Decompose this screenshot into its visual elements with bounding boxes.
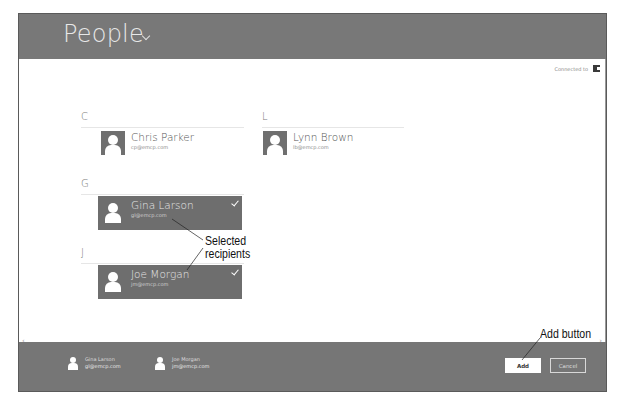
person-avatar-icon [153, 356, 167, 370]
annotation-line: recipients [205, 248, 250, 261]
contact-tile-gina-larson[interactable]: Gina Larson gl@emcp.com [98, 196, 242, 230]
checkmark-icon [231, 268, 239, 276]
contact-email: cp@emcp.com [131, 143, 194, 151]
connection-status: Connected to [554, 65, 600, 72]
contact-name: Lynn Brown [293, 131, 353, 143]
connection-label: Connected to [554, 66, 588, 72]
person-avatar-icon [263, 131, 287, 155]
recipient-name: Gina Larson [85, 356, 121, 363]
divider [81, 263, 244, 264]
annotation-add-button: Add button [540, 328, 591, 341]
contact-tile-joe-morgan[interactable]: Joe Morgan jm@emcp.com [98, 265, 242, 299]
recipient-email: jm@emcp.com [172, 363, 209, 370]
recipient-email: gl@emcp.com [85, 363, 121, 370]
person-avatar-icon [101, 268, 125, 292]
group-letter[interactable]: L [262, 110, 404, 124]
group-header-l: L [262, 110, 404, 128]
people-picker-window: People Connected to C Chris Parker cp@em… [18, 13, 607, 392]
selected-recipient-chip-joe-morgan[interactable]: Joe Morgan jm@emcp.com [153, 356, 209, 370]
group-header-g: G [81, 177, 244, 195]
divider [605, 59, 606, 342]
group-header-c: C [81, 110, 244, 128]
contact-email: gl@emcp.com [131, 211, 194, 219]
divider [81, 194, 244, 195]
person-avatar-icon [66, 356, 80, 370]
service-icon[interactable] [593, 65, 600, 72]
group-letter[interactable]: G [81, 177, 244, 191]
contact-name: Joe Morgan [131, 268, 189, 280]
contact-tile-chris-parker[interactable]: Chris Parker cp@emcp.com [98, 128, 242, 162]
person-avatar-icon [101, 131, 125, 155]
contact-name: Chris Parker [131, 131, 194, 143]
contact-tile-lynn-brown[interactable]: Lynn Brown lb@emcp.com [260, 128, 404, 162]
selected-recipient-chip-gina-larson[interactable]: Gina Larson gl@emcp.com [66, 356, 121, 370]
add-button[interactable]: Add [505, 358, 541, 373]
annotation-selected-recipients: Selected recipients [205, 235, 250, 261]
group-letter[interactable]: C [81, 110, 244, 124]
cancel-button[interactable]: Cancel [550, 358, 586, 373]
recipient-name: Joe Morgan [172, 356, 209, 363]
app-title[interactable]: People [63, 20, 144, 48]
person-avatar-icon [101, 199, 125, 223]
contact-email: jm@emcp.com [131, 280, 189, 288]
checkmark-icon [231, 199, 239, 207]
contact-name: Gina Larson [131, 199, 194, 211]
selection-tray: Gina Larson gl@emcp.com Joe Morgan jm@em… [19, 342, 606, 392]
contact-email: lb@emcp.com [293, 143, 353, 151]
app-header: People [19, 14, 606, 59]
